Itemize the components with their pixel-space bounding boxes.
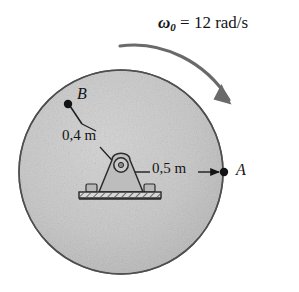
point-a-marker: [220, 168, 228, 176]
omega-subscript: 0: [170, 21, 176, 33]
omega-equals: =: [180, 13, 190, 32]
omega-units: rad/s: [215, 13, 248, 32]
angular-velocity-label: ω0 = 12 rad/s: [158, 14, 248, 33]
rotating-disk-figure: [0, 0, 299, 292]
omega-value: 12: [194, 13, 211, 32]
bolt-left: [86, 184, 97, 192]
base-plate-hatching: [80, 193, 160, 197]
bolt-right: [144, 184, 155, 192]
radius-b-label: 0,4 m: [62, 128, 96, 143]
rotation-arrow-head: [214, 84, 232, 105]
point-b-label: B: [77, 86, 87, 102]
bearing-pin-center: [118, 162, 123, 167]
point-a-label: A: [236, 162, 246, 178]
radius-a-label: 0,5 m: [152, 161, 186, 176]
omega-symbol: ω: [158, 13, 170, 32]
point-b-marker: [64, 100, 72, 108]
